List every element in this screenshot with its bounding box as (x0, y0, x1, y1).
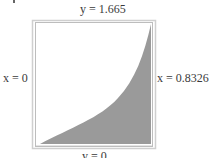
region-plot (0, 0, 211, 158)
